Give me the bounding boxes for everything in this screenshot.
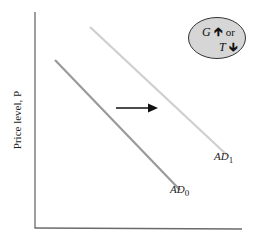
bubble-line-2: T 🡳 [219,38,238,59]
ad0-label: AD0 [170,183,189,198]
ad1-label: AD1 [214,150,233,165]
g-variable: G [202,25,211,39]
or-label: or [226,26,235,38]
y-axis-label: Price level, P [11,91,23,149]
ad0-curve [55,60,180,190]
shift-arrow [116,104,158,113]
arrow-up-icon: 🡱 [214,25,223,39]
t-variable: T [219,40,226,54]
x-axis [35,228,243,229]
arrow-down-icon: 🡳 [229,40,238,54]
